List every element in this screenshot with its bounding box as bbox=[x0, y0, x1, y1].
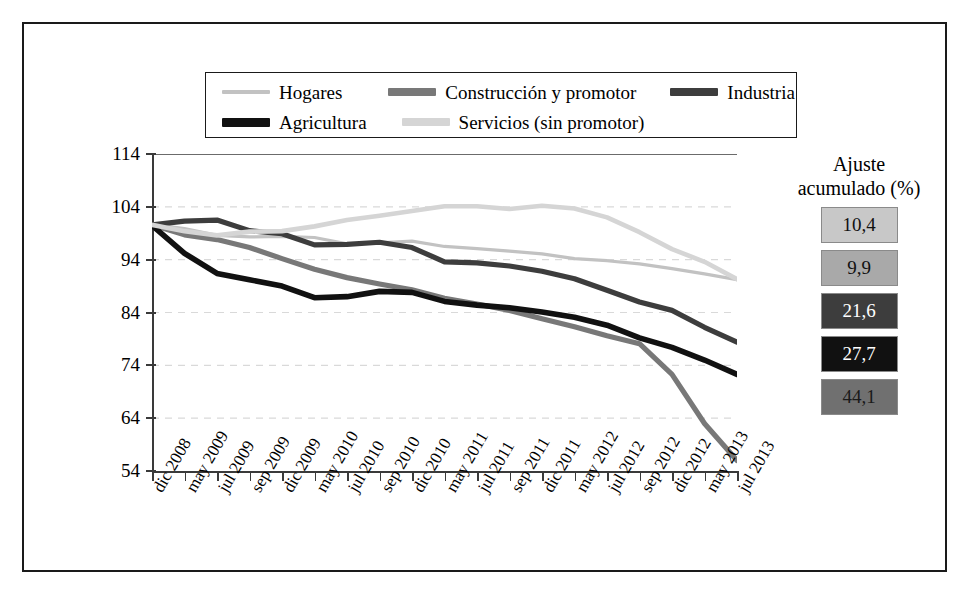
legend-item-industria: Industria bbox=[670, 83, 795, 102]
y-axis-tick-mark bbox=[146, 206, 156, 208]
legend-item-hogares: Hogares bbox=[222, 83, 342, 102]
y-axis-tick-mark bbox=[146, 312, 156, 314]
legend-swatch-hogares bbox=[222, 90, 270, 94]
legend-swatch-industria bbox=[670, 88, 718, 96]
legend-label-hogares: Hogares bbox=[279, 83, 342, 102]
chart-screenshot: Hogares Construcción y promotor Industri… bbox=[0, 0, 971, 595]
adjustment-title-line2: acumulado (%) bbox=[769, 176, 949, 200]
legend-item-construccion: Construcción y promotor bbox=[388, 83, 636, 102]
legend-item-agricultura: Agricultura bbox=[222, 113, 367, 132]
legend-row-1: Hogares Construcción y promotor Industri… bbox=[206, 77, 796, 107]
legend-swatch-servicios bbox=[402, 118, 450, 126]
y-axis-tick-mark bbox=[146, 470, 156, 472]
legend-label-construccion: Construcción y promotor bbox=[445, 83, 636, 102]
chart-frame: Hogares Construcción y promotor Industri… bbox=[22, 22, 947, 572]
adjustment-box: 21,6 bbox=[821, 293, 898, 329]
legend-item-servicios: Servicios (sin promotor) bbox=[402, 113, 645, 132]
legend-row-2: Agricultura Servicios (sin promotor) bbox=[206, 107, 796, 137]
adjustment-panel: Ajuste acumulado (%) 10,49,921,627,744,1 bbox=[769, 152, 949, 415]
y-axis-tick-mark bbox=[146, 153, 156, 155]
adjustment-box: 9,9 bbox=[821, 250, 898, 286]
y-axis-tick-label: 64 bbox=[94, 407, 140, 429]
y-axis-tick-label: 114 bbox=[94, 143, 140, 165]
adjustment-panel-title: Ajuste acumulado (%) bbox=[769, 152, 949, 200]
adjustment-box: 27,7 bbox=[821, 336, 898, 372]
legend-swatch-construccion bbox=[388, 88, 436, 96]
y-axis-tick-label: 54 bbox=[94, 460, 140, 482]
adjustment-box: 44,1 bbox=[821, 379, 898, 415]
y-axis-tick-label: 74 bbox=[94, 354, 140, 376]
plot-area bbox=[152, 154, 737, 471]
chart-legend: Hogares Construcción y promotor Industri… bbox=[205, 72, 797, 138]
y-axis-tick-label: 94 bbox=[94, 249, 140, 271]
y-axis-tick-label: 104 bbox=[94, 196, 140, 218]
adjustment-box: 10,4 bbox=[821, 207, 898, 243]
legend-swatch-agricultura bbox=[222, 118, 270, 127]
y-axis-tick-label: 84 bbox=[94, 302, 140, 324]
y-axis-tick-mark bbox=[146, 259, 156, 261]
plot-svg bbox=[152, 154, 737, 471]
y-axis-tick-mark bbox=[146, 417, 156, 419]
legend-label-servicios: Servicios (sin promotor) bbox=[459, 113, 645, 132]
y-axis-tick-mark bbox=[146, 364, 156, 366]
legend-label-industria: Industria bbox=[727, 83, 795, 102]
adjustment-title-line1: Ajuste bbox=[769, 152, 949, 176]
adjustment-box-list: 10,49,921,627,744,1 bbox=[769, 207, 949, 415]
legend-label-agricultura: Agricultura bbox=[279, 113, 367, 132]
